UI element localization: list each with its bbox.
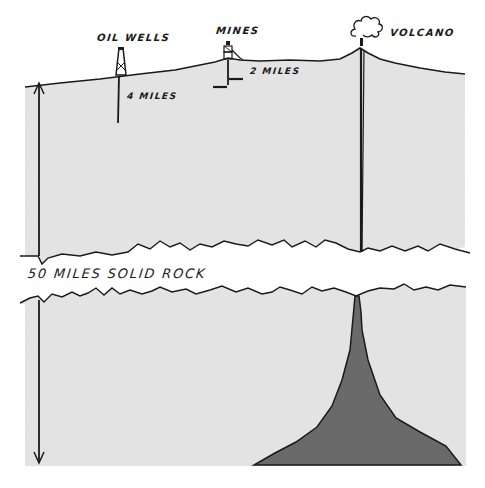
- cross-section-drawing: [0, 0, 485, 488]
- lower-crust-block: [20, 284, 466, 466]
- earth-crust-diagram: OIL WELLS 4 MILES MINES 2 MILES VOLCANO …: [0, 0, 485, 488]
- mines-label: MINES: [215, 25, 260, 36]
- mine-depth-label: 2 MILES: [249, 66, 301, 76]
- oil-depth-label: 4 MILES: [126, 91, 178, 101]
- upper-crust-block: [20, 17, 470, 264]
- mine-headframe-icon: [224, 41, 243, 60]
- oil-derrick-icon: [116, 47, 126, 75]
- oil-wells-label: OIL WELLS: [96, 32, 171, 43]
- eruption-cloud-icon: [351, 17, 382, 37]
- volcano-label: VOLCANO: [389, 27, 455, 38]
- solid-rock-label: 50 MILES SOLID ROCK: [27, 266, 207, 281]
- oil-well-shaft: [118, 76, 119, 123]
